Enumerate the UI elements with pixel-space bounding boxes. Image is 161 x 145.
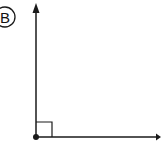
label-letter: B [0, 9, 10, 26]
arrowhead-up-icon [33, 3, 40, 13]
right-angle-marker [36, 122, 52, 137]
arrowhead-right-icon [156, 134, 161, 141]
vertex-dot [33, 134, 39, 140]
figure-label: B [0, 7, 15, 27]
right-angle-diagram: B [0, 0, 161, 145]
